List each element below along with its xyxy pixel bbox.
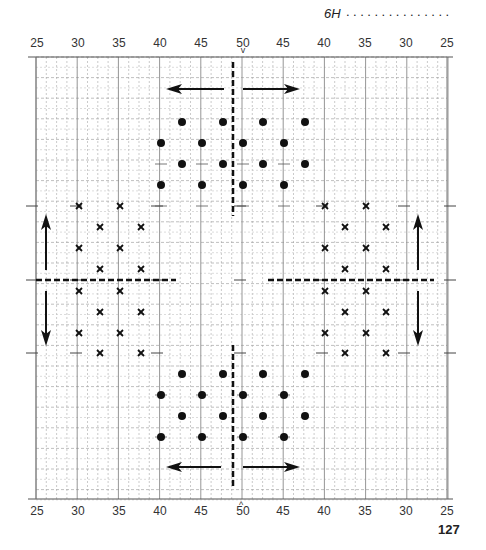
dot-stitch [219, 370, 227, 378]
cross-stitch [97, 309, 103, 315]
dot-stitch [219, 160, 227, 168]
dot-stitch [259, 118, 267, 126]
dot-stitch [198, 139, 206, 147]
arrow-up-right-icon [413, 214, 423, 270]
dot-stitch [280, 433, 288, 441]
arrow-left-top-icon [166, 84, 224, 94]
dot-stitch [280, 391, 288, 399]
page-number: 127 [438, 522, 460, 537]
cross-stitch [322, 245, 328, 251]
dot-stitch [178, 370, 186, 378]
arrow-right-top-icon [243, 84, 300, 94]
dot-stitch [157, 433, 165, 441]
dot-stitch [239, 391, 247, 399]
dot-stitch [219, 412, 227, 420]
cross-stitch [117, 288, 123, 294]
arrow-up-left-icon [41, 214, 51, 270]
fold-lines [36, 62, 434, 488]
cross-stitch [117, 245, 123, 251]
dot-stitch [157, 139, 165, 147]
cross-stitch [117, 203, 123, 209]
dot-stitch [280, 181, 288, 189]
arrow-right-bottom-icon [243, 462, 300, 472]
dot-stitch [301, 370, 309, 378]
dot-stitch [178, 118, 186, 126]
dot-stitch [157, 391, 165, 399]
cross-stitch [138, 309, 144, 315]
dot-stitch [259, 370, 267, 378]
dot-stitch [239, 181, 247, 189]
dot-stitch [219, 118, 227, 126]
dot-stitch [178, 160, 186, 168]
dot-stitch [301, 118, 309, 126]
knitting-chart-grid [0, 0, 486, 550]
dot-stitch [259, 412, 267, 420]
cross-stitch [322, 288, 328, 294]
dot-stitch [178, 412, 186, 420]
dot-stitch [157, 181, 165, 189]
arrow-down-right-icon [413, 291, 423, 346]
arrow-down-left-icon [41, 291, 51, 346]
dot-stitch [301, 412, 309, 420]
dot-stitch [198, 391, 206, 399]
arrow-left-bottom-icon [166, 462, 221, 472]
dot-stitch [198, 433, 206, 441]
dot-stitch [239, 139, 247, 147]
dot-stitch [198, 181, 206, 189]
dot-stitch [259, 160, 267, 168]
dot-stitch [280, 139, 288, 147]
dot-stitch [301, 160, 309, 168]
dot-stitch [239, 433, 247, 441]
